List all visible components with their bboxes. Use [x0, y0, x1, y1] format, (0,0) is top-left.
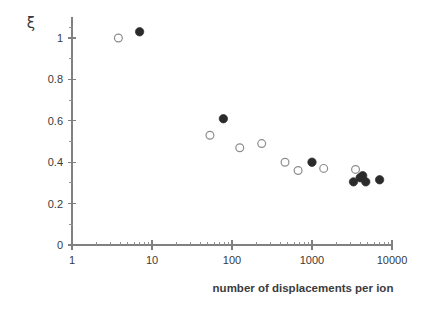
data-point-open — [281, 158, 289, 166]
y-tick-label: 0.8 — [48, 73, 63, 85]
x-tick-label: 1 — [69, 254, 75, 266]
data-point-filled — [135, 28, 143, 36]
x-axis-title: number of displacements per ion — [213, 282, 394, 294]
y-tick-label: 1 — [57, 32, 63, 44]
x-axis-tick-labels: 110100100010000 — [69, 254, 407, 266]
y-tick-label: 0.2 — [48, 198, 63, 210]
data-point-filled — [375, 176, 383, 184]
data-point-open — [206, 131, 214, 139]
data-point-open — [352, 166, 360, 174]
x-tick-label: 10000 — [377, 254, 408, 266]
x-tick-label: 100 — [223, 254, 241, 266]
data-points — [114, 28, 383, 186]
chart-figure: 110100100010000 00.20.40.60.81 ξ number … — [0, 0, 427, 309]
data-point-filled — [308, 158, 316, 166]
x-tick-label: 10 — [146, 254, 158, 266]
data-point-filled — [219, 115, 227, 123]
y-tick-label: 0.4 — [48, 156, 63, 168]
axis-ticks — [68, 28, 392, 250]
y-axis-tick-labels: 00.20.40.60.81 — [48, 32, 63, 251]
axes — [72, 17, 392, 245]
data-point-open — [258, 140, 266, 148]
y-tick-label: 0 — [57, 239, 63, 251]
scatter-plot-svg: 110100100010000 00.20.40.60.81 ξ number … — [0, 0, 427, 309]
data-point-open — [294, 167, 302, 175]
y-axis-label: ξ — [27, 14, 35, 32]
y-tick-label: 0.6 — [48, 115, 63, 127]
data-point-open — [114, 34, 122, 42]
data-point-filled — [362, 178, 370, 186]
x-tick-label: 1000 — [300, 254, 324, 266]
data-point-open — [320, 165, 328, 173]
data-point-open — [236, 144, 244, 152]
